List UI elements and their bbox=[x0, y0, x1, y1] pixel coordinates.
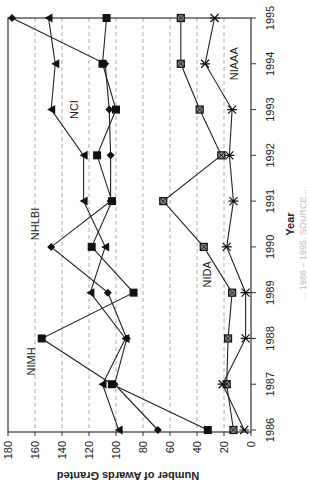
year-tick-label: 1993 bbox=[264, 97, 276, 121]
series-labels: NCINHLBINIMHNIDANIAAA bbox=[25, 47, 240, 376]
value-tick-label: 0 bbox=[245, 441, 257, 447]
value-tick-label: 60 bbox=[164, 441, 176, 453]
year-axis-ticks: 1986198719881989199019911992199319941995 bbox=[251, 6, 276, 442]
series-nci bbox=[45, 14, 130, 435]
year-tick-label: 1987 bbox=[264, 372, 276, 396]
value-tick-label: 160 bbox=[29, 441, 41, 459]
series-lines bbox=[8, 14, 251, 435]
year-tick-label: 1986 bbox=[264, 418, 276, 442]
value-tick-label: 120 bbox=[83, 441, 95, 459]
year-tick-label: 1989 bbox=[264, 280, 276, 304]
series-label-nhlbi: NHLBI bbox=[29, 208, 41, 240]
gridlines bbox=[35, 18, 224, 432]
series-niaaa bbox=[200, 14, 251, 434]
series-label-niaaa: NIAAA bbox=[228, 47, 240, 81]
value-axis-ticks: 020406080100120140160180 bbox=[2, 432, 257, 459]
series-label-nimh: NIMH bbox=[25, 347, 37, 375]
value-tick-label: 180 bbox=[2, 441, 14, 459]
year-tick-label: 1994 bbox=[264, 52, 276, 76]
year-tick-label: 1990 bbox=[264, 235, 276, 259]
year-tick-label: 1988 bbox=[264, 326, 276, 350]
value-tick-label: 100 bbox=[110, 441, 122, 459]
year-tick-label: 1992 bbox=[264, 143, 276, 167]
value-tick-label: 140 bbox=[56, 441, 68, 459]
year-tick-label: 1995 bbox=[264, 6, 276, 30]
year-tick-label: 1991 bbox=[264, 189, 276, 213]
series-nida bbox=[160, 15, 237, 434]
value-axis-title: Number of Awards Granted bbox=[57, 470, 199, 482]
series-label-nci: NCI bbox=[68, 100, 80, 119]
value-tick-label: 20 bbox=[218, 441, 230, 453]
figure-caption: ... 1986 – 1995. SOURCE ... bbox=[298, 186, 308, 300]
year-axis-title: Year bbox=[284, 212, 296, 236]
value-tick-label: 80 bbox=[137, 441, 149, 453]
series-label-nida: NIDA bbox=[201, 261, 213, 288]
value-tick-label: 40 bbox=[191, 441, 203, 453]
rotated-line-chart: 020406080100120140160180 198619871988198… bbox=[0, 0, 309, 482]
